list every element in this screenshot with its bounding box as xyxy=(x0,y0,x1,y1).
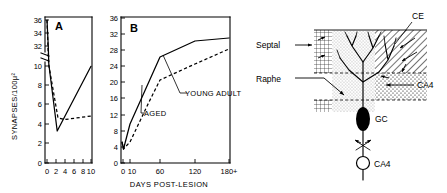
panel-a-xtick-4: 4 xyxy=(63,167,67,176)
figure-container: SYNAPSES/100μ² 36 34 32 10 8 xyxy=(0,0,447,193)
panel-a-ytick-0: 0 xyxy=(38,159,42,168)
diagram-label-septal: Septal xyxy=(256,40,280,50)
panel-a-ytick-34: 34 xyxy=(34,29,42,38)
panel-b-x-axis-title: DAYS POST-LESION xyxy=(130,180,208,189)
panel-b-ytick-20: 20 xyxy=(110,78,118,87)
panel-b-xtick-180: 180+ xyxy=(221,167,239,176)
panel-a-ytick-2: 2 xyxy=(38,139,42,148)
zone-septal-outer xyxy=(314,30,332,73)
panel-b-ytick-24: 24 xyxy=(110,62,118,71)
panel-a-ytick-32: 32 xyxy=(34,42,42,51)
panel-b-label-young-adult: YOUNG ADULT xyxy=(185,89,242,98)
panel-a-x-ticks: 0 2 4 6 8 10 xyxy=(45,159,95,176)
panel-b-xtick-60: 60 xyxy=(156,167,164,176)
panel-b-x-ticks: 0 10 60 120 180+ xyxy=(121,159,238,176)
diagram-label-ce: CE xyxy=(412,11,424,21)
panel-b-xtick-120: 120 xyxy=(189,167,202,176)
ca4-cell-soma xyxy=(357,157,370,170)
panel-b-ytick-16: 16 xyxy=(110,94,118,103)
panel-b-ytick-32: 32 xyxy=(110,30,118,39)
panel-b-leader-young-adult xyxy=(163,55,187,93)
zone-raphe-band xyxy=(314,73,332,100)
zone-septal-lower xyxy=(314,100,332,112)
panel-b-ytick-8: 8 xyxy=(114,127,118,136)
panel-a-ytick-8: 8 xyxy=(38,81,42,90)
panel-a-ytick-4: 4 xyxy=(38,120,42,129)
diagram-label-raphe: Raphe xyxy=(256,74,281,84)
panel-a-xtick-8: 8 xyxy=(81,167,85,176)
panel-a-curve-young-adult xyxy=(47,20,91,131)
panel-b-ytick-0: 0 xyxy=(114,159,118,168)
panel-a-ytick-6: 6 xyxy=(38,100,42,109)
panel-a-y-axis-title: SYNAPSES/100μ² xyxy=(10,72,19,140)
panel-b-letter: B xyxy=(130,22,138,34)
panel-b-curve-aged xyxy=(122,49,229,149)
panel-b-xtick-0: 0 xyxy=(121,167,125,176)
panel-a: SYNAPSES/100μ² 36 34 32 10 8 xyxy=(0,0,100,193)
panel-a-letter: A xyxy=(55,20,63,32)
panel-b-ytick-12: 12 xyxy=(110,111,118,120)
panel-a-xtick-2: 2 xyxy=(54,167,58,176)
granule-cell-soma xyxy=(356,107,370,131)
dentate-gyrus-diagram: GC CA4 Septal Raphe CE CA4 xyxy=(252,0,447,193)
panel-b-ytick-4: 4 xyxy=(114,143,118,152)
panel-a-lower-ticks: 10 8 6 4 2 0 xyxy=(34,62,49,168)
panel-a-xtick-6: 6 xyxy=(72,167,76,176)
panel-b-label-aged: AGED xyxy=(144,109,167,118)
panel-b-ytick-28: 28 xyxy=(110,46,118,55)
diagram-label-gc: GC xyxy=(375,114,388,124)
diagram-label-ca4-cell: CA4 xyxy=(374,159,391,169)
panel-b: 36 32 28 24 20 16 12 8 4 0 0 10 60 120 1… xyxy=(97,0,249,193)
panel-a-xtick-10: 10 xyxy=(87,167,95,176)
diagram-label-ca4-zone: CA4 xyxy=(417,80,434,90)
panel-a-ytick-36: 36 xyxy=(34,16,42,25)
panel-a-xtick-0: 0 xyxy=(45,167,49,176)
panel-a-ytick-10: 10 xyxy=(34,62,42,71)
panel-b-ytick-36: 36 xyxy=(110,14,118,23)
panel-b-xtick-10: 10 xyxy=(128,167,136,176)
